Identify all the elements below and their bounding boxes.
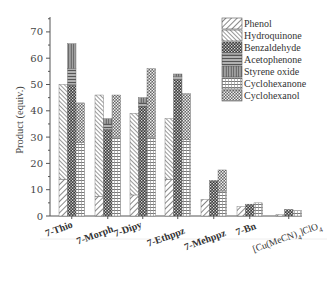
bar-segment-acetophenone	[139, 103, 148, 107]
bar-segment-benzaldehyde	[139, 107, 148, 216]
bar-segment-hydroquinone	[165, 119, 174, 179]
bar-group	[95, 95, 121, 219]
bar-segment-cyclohexanone	[218, 191, 227, 216]
chart-legend: Phenol Hydroquinone Benzaldehyde Acetoph…	[222, 18, 307, 101]
bar-segment-cyclohexanol	[147, 69, 156, 137]
bar-segment-benzaldehyde	[174, 79, 183, 216]
bar-segment-cyclohexanone	[76, 142, 85, 216]
y-tick-label: 60	[30, 53, 43, 64]
legend-item-cyclohexanol: Cyclohexanol	[222, 90, 300, 101]
y-tick-label: 10	[30, 184, 43, 195]
bar-segment-acetophenone	[68, 69, 77, 85]
bar-segment-phenol	[237, 207, 246, 216]
bar-segment-phenol	[165, 179, 174, 216]
bar-group	[201, 170, 227, 219]
legend-item-benzaldehyde: Benzaldehyde	[222, 42, 301, 53]
legend-item-styrene-oxide: Styrene oxide	[222, 66, 300, 77]
category-label-7-dipy: 7-Dipy	[112, 219, 143, 239]
bar-segment-cyclohexanone	[112, 137, 121, 216]
svg-text:Acetophenone: Acetophenone	[244, 54, 302, 65]
bar-segment-benzaldehyde	[210, 180, 219, 216]
legend-item-cyclohexanone: Cyclohexanone	[222, 78, 307, 89]
y-tick-label: 30	[30, 132, 43, 143]
category-label-7-morph: 7-Morph	[75, 223, 115, 247]
x-axis-category-labels: 7-Thio 7-Morph 7-Dipy 7-Ethppz 7-Mehppz …	[44, 219, 325, 258]
y-axis-title: Product (equiv.)	[14, 86, 26, 154]
bar-segment-cyclohexanol	[76, 103, 85, 142]
category-label-7-bn: 7-Bn	[234, 220, 257, 238]
bar-segment-hydroquinone	[130, 113, 139, 195]
svg-text:Cyclohexanone: Cyclohexanone	[244, 78, 307, 89]
y-tick-label: 0	[37, 211, 43, 222]
bar-segment-phenol	[276, 215, 285, 216]
y-tick-label: 50	[30, 79, 43, 90]
svg-text:Styrene oxide: Styrene oxide	[244, 66, 300, 77]
bar-group	[165, 74, 191, 219]
bar-segment-phenol	[59, 179, 68, 216]
y-axis: 010203040506070	[30, 17, 50, 222]
bar-segment-styrene-oxide	[104, 119, 113, 124]
y-tick-label: 20	[30, 158, 43, 169]
legend-item-phenol: Phenol	[222, 18, 272, 29]
bar-segment-styrene-oxide	[174, 74, 183, 77]
y-tick-label: 70	[30, 26, 43, 37]
legend-item-acetophenone: Acetophenone	[222, 54, 302, 65]
svg-text:Hydroquinone: Hydroquinone	[244, 30, 302, 41]
bar-segment-benzaldehyde	[285, 209, 294, 216]
bar-segment-styrene-oxide	[139, 98, 148, 103]
bar-segment-phenol	[201, 199, 210, 216]
bar-segment-cyclohexanone	[147, 137, 156, 216]
svg-text:Phenol: Phenol	[244, 18, 272, 29]
bar-group	[237, 203, 263, 219]
bar-segment-hydroquinone	[59, 85, 68, 180]
bar-segment-cyclohexanol	[112, 95, 121, 137]
bar-segment-benzaldehyde	[246, 204, 255, 216]
bar-chart: Product (equiv.) 010203040506070 7-Thio …	[0, 0, 327, 282]
category-label-7-mehppz: 7-Mehppz	[183, 227, 228, 252]
y-tick-label: 40	[30, 105, 43, 116]
bar-segment-acetophenone	[174, 77, 183, 80]
bar-segment-acetophenone	[104, 124, 113, 129]
bar-segment-benzaldehyde	[104, 129, 113, 216]
bar-segment-cyclohexanol	[218, 170, 227, 191]
legend-item-hydroquinone: Hydroquinone	[222, 30, 302, 41]
svg-text:Benzaldehyde: Benzaldehyde	[244, 42, 301, 53]
category-label-7-ethppz: 7-Ethppz	[145, 225, 186, 249]
bar-segment-benzaldehyde	[68, 85, 77, 217]
bar-group	[59, 44, 85, 219]
bar-group	[276, 209, 302, 219]
bar-segment-cyclohexanone	[254, 203, 263, 216]
bar-segment-hydroquinone	[95, 95, 104, 196]
bar-group	[130, 69, 156, 219]
bar-segment-cyclohexanone	[293, 211, 302, 216]
bar-segment-cyclohexanone	[182, 140, 191, 216]
bar-segment-styrene-oxide	[68, 44, 77, 69]
svg-text:Cyclohexanol: Cyclohexanol	[244, 90, 300, 101]
category-label-7-thio: 7-Thio	[44, 219, 74, 239]
bar-segment-phenol	[95, 196, 104, 216]
bar-segment-cyclohexanol	[182, 94, 191, 140]
bar-segment-phenol	[130, 195, 139, 216]
